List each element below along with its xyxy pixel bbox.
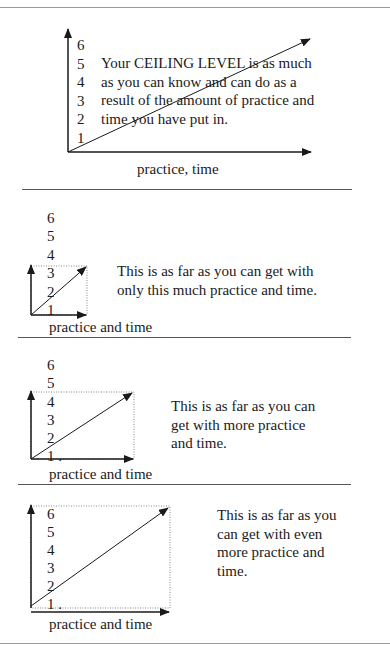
y-tick: 5: [77, 57, 85, 72]
y-tick: 3: [47, 266, 55, 281]
caption-line: Your CEILING LEVEL is as much: [101, 54, 351, 73]
y-tick: 4: [77, 75, 85, 90]
y-tick: 1: [47, 303, 55, 318]
caption-line: This is as far as you: [217, 506, 377, 525]
y-tick: 6: [47, 358, 55, 373]
y-tick: 6: [77, 38, 85, 53]
y-tick: 4: [47, 248, 55, 263]
section-divider: [18, 337, 351, 338]
caption-line: This is as far as you can get with: [117, 262, 347, 281]
caption-line: This is as far as you can: [171, 397, 351, 416]
diagram-caption: This is as far as you can get with only …: [117, 262, 347, 299]
y-tick: 3: [47, 561, 55, 576]
caption-line: time.: [217, 562, 377, 581]
y-tick: 2: [77, 112, 85, 127]
y-tick: 1 .: [47, 597, 62, 612]
caption-line: get with more practice: [171, 416, 351, 435]
diagram-2-axes: [31, 265, 87, 315]
y-tick: 1 .: [47, 449, 62, 464]
y-tick: 3: [47, 413, 55, 428]
diagram-caption: This is as far as you can get with even …: [217, 506, 377, 580]
y-tick: 4: [47, 543, 55, 558]
section-divider: [22, 189, 352, 190]
caption-line: and time.: [171, 434, 351, 453]
caption-line: can get with even: [217, 525, 377, 544]
x-axis-label: practice and time: [49, 465, 152, 484]
y-tick: 5: [47, 229, 55, 244]
diagram-caption: This is as far as you can get with more …: [171, 397, 351, 453]
x-axis-label: practice, time: [137, 160, 219, 179]
y-tick: 6: [47, 507, 55, 522]
y-tick: 5: [47, 525, 55, 540]
y-tick: 5: [47, 376, 55, 391]
y-tick: 2: [47, 431, 55, 446]
x-axis-label: practice and time: [49, 318, 152, 337]
diagram-caption: Your CEILING LEVEL is as much as you can…: [101, 54, 351, 128]
caption-line: more practice and: [217, 543, 377, 562]
caption-line: result of the amount of practice and: [101, 91, 351, 110]
x-axis-label: practice and time: [49, 615, 152, 634]
y-tick: 2: [47, 285, 55, 300]
y-tick: 6: [47, 211, 55, 226]
y-tick: 4: [47, 395, 55, 410]
caption-line: as you can know and can do as a: [101, 73, 351, 92]
y-tick: 3: [77, 94, 85, 109]
caption-line: time you have put in.: [101, 110, 351, 129]
y-tick: 2: [47, 579, 55, 594]
page-bottom-rule: [0, 643, 390, 644]
section-divider: [18, 484, 351, 485]
caption-line: only this much practice and time.: [117, 281, 347, 300]
y-tick: 1: [77, 131, 85, 146]
